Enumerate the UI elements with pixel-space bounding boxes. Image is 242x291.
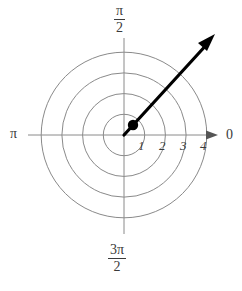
ray-line (124, 42, 209, 135)
angle-label-pi: π (10, 127, 17, 141)
angle-label-pi-over-2: π 2 (114, 4, 125, 35)
radial-tick-label-4: 4 (200, 139, 207, 152)
plotted-point-marker (128, 120, 138, 130)
radial-tick-label-2: 2 (159, 139, 166, 152)
angle-label-3pi-over-2: 3π 2 (108, 243, 126, 274)
angle-label-zero: 0 (226, 128, 233, 142)
fraction-denominator: 2 (114, 21, 125, 35)
fraction-numerator: π (114, 4, 125, 18)
fraction-denominator: 2 (108, 260, 126, 274)
plotted-ray (124, 34, 215, 135)
fraction-pi-over-2: π 2 (114, 4, 125, 35)
radial-tick-label-1: 1 (138, 139, 145, 152)
fraction-3pi-over-2: 3π 2 (108, 243, 126, 274)
fraction-numerator: 3π (108, 243, 126, 257)
horizontal-axis-arrowhead (206, 131, 218, 140)
radial-tick-label-3: 3 (180, 139, 187, 152)
ray-arrowhead (198, 34, 215, 51)
